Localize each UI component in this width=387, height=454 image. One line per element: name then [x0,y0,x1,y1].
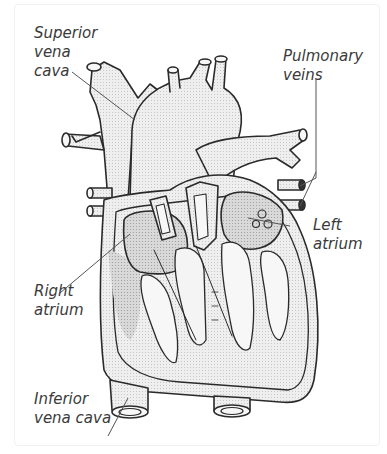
label-line: Left [313,216,363,235]
label-pulmonary-veins: Pulmonary veins [283,47,363,85]
label-inferior-vena-cava: Inferior vena cava [34,390,111,428]
label-line: veins [283,66,363,85]
label-line: Right [34,282,84,301]
label-line: Superior [34,24,97,43]
label-right-atrium: Right atrium [34,282,84,320]
label-line: Pulmonary [283,47,363,66]
label-line: atrium [313,235,363,254]
label-line: vena cava [34,409,111,428]
label-line: cava [34,62,97,81]
label-superior-vena-cava: Superior vena cava [34,24,97,81]
label-line: vena [34,43,97,62]
label-line: atrium [34,301,84,320]
label-left-atrium: Left atrium [313,216,363,254]
label-line: Inferior [34,390,111,409]
